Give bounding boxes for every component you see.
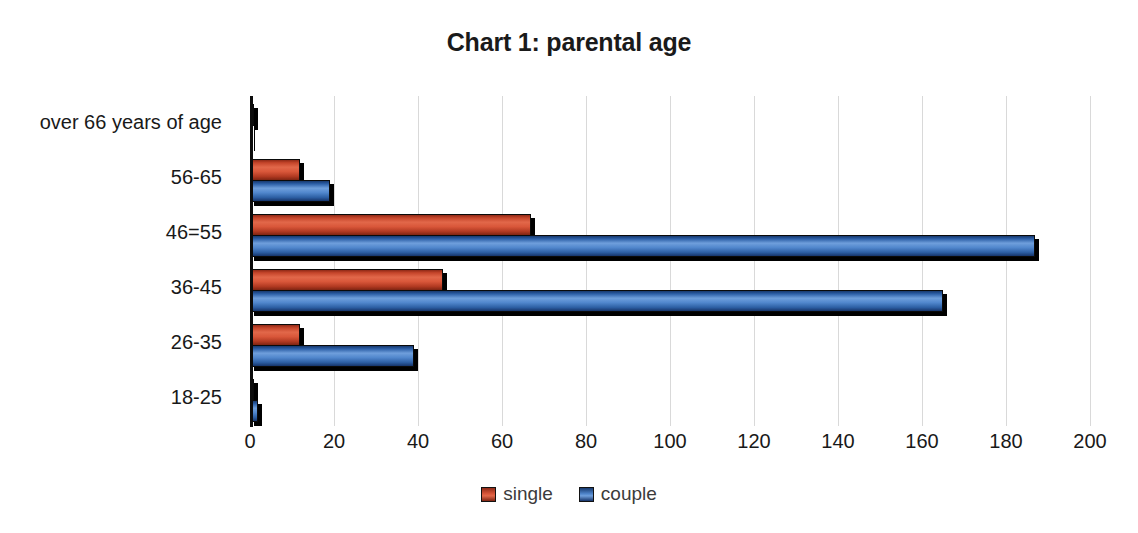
x-tick-label: 40 [407,430,429,453]
category-label: over 66 years of age [0,111,222,134]
bar-group [250,261,1090,316]
bar-shadow [254,129,255,151]
chart-title: Chart 1: parental age [0,28,1138,57]
value-axis-line [250,96,253,427]
x-tick-label: 120 [737,430,770,453]
bar-single[interactable] [250,214,531,236]
bar-shadow [254,108,258,130]
x-tick-label: 140 [821,430,854,453]
legend-label: single [503,483,553,505]
chart-legend: singlecouple [0,483,1138,505]
category-label: 36-45 [0,276,222,299]
bar-body [250,235,1035,257]
category-label: 26-35 [0,331,222,354]
bar-group [250,206,1090,261]
bar-couple[interactable] [250,235,1035,257]
bar-body [250,159,300,181]
legend-label: couple [601,483,657,505]
bar-group [250,96,1090,151]
bar-group [250,371,1090,426]
bar-single[interactable] [250,324,300,346]
chart-container: Chart 1: parental age over 66 years of a… [0,0,1138,533]
gridline [1090,96,1091,426]
category-axis-labels: over 66 years of age56-6546=5536-4526-35… [0,96,240,426]
bar-group [250,316,1090,371]
bar-body [250,345,414,367]
bar-body [250,290,943,312]
x-tick-label: 180 [989,430,1022,453]
x-tick-label: 60 [491,430,513,453]
bar-body [250,269,443,291]
bar-group [250,151,1090,206]
x-tick-label: 80 [575,430,597,453]
legend-swatch-icon [579,487,594,502]
bar-single[interactable] [250,269,443,291]
x-tick-label: 160 [905,430,938,453]
bar-body [250,180,330,202]
category-label: 18-25 [0,386,222,409]
bar-body [250,214,531,236]
bar-couple[interactable] [250,345,414,367]
plot-area [250,96,1090,426]
value-axis-tick-labels: 020406080100120140160180200 [250,430,1090,462]
bar-couple[interactable] [250,180,330,202]
bar-couple[interactable] [250,290,943,312]
x-tick-label: 200 [1073,430,1106,453]
x-tick-label: 0 [244,430,255,453]
x-tick-label: 100 [653,430,686,453]
category-label: 56-65 [0,166,222,189]
legend-swatch-icon [481,487,496,502]
x-tick-label: 20 [323,430,345,453]
legend-item-couple[interactable]: couple [579,483,657,505]
legend-item-single[interactable]: single [481,483,553,505]
bar-body [250,324,300,346]
bar-single[interactable] [250,159,300,181]
category-label: 46=55 [0,221,222,244]
